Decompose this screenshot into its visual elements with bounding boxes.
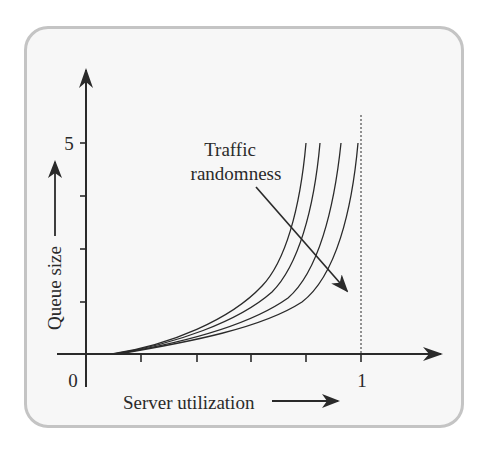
x-ticks bbox=[141, 354, 361, 362]
queue-size-chart: 5 0 1 Traffic randomness Server utilizat… bbox=[0, 0, 493, 452]
annotation-line2: randomness bbox=[191, 163, 282, 184]
y-axis-label: Queue size bbox=[44, 246, 65, 330]
origin-label: 0 bbox=[68, 370, 78, 391]
y-tick-label-5: 5 bbox=[64, 133, 74, 154]
x-axis-label: Server utilization bbox=[123, 392, 255, 413]
x-tick-label-1: 1 bbox=[357, 370, 367, 391]
traffic-randomness-arrow bbox=[256, 187, 347, 291]
annotation-line1: Traffic bbox=[204, 139, 256, 160]
